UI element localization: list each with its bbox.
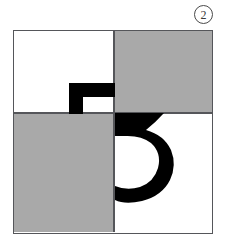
quadrant-bottom-right: [113, 112, 212, 232]
figure-index-marker: 2: [194, 5, 213, 24]
divider-horizontal: [14, 112, 212, 114]
quadrant-top-right: [113, 31, 212, 112]
four-quadrant-panel: [13, 30, 213, 234]
quadrant-bottom-left: [14, 112, 113, 232]
figure-root: 2: [0, 0, 227, 246]
quadrant-top-left: [14, 31, 113, 112]
divider-vertical: [113, 31, 115, 232]
figure-index-label: 2: [201, 9, 207, 21]
